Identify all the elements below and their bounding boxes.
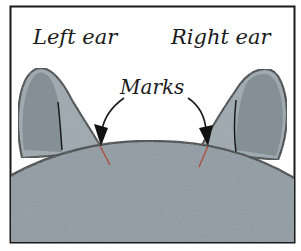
- ear-marks-diagram: Left ear Right ear Marks: [0, 0, 301, 251]
- marks-label: Marks: [119, 75, 184, 99]
- right-ear-label: Right ear: [170, 25, 273, 49]
- left-ear-label: Left ear: [32, 25, 119, 49]
